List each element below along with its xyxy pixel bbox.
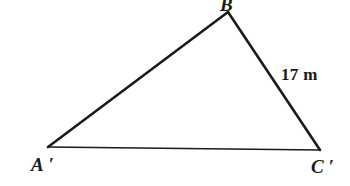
triangle-figure: A ′ B C ′ 17 m [0,0,350,186]
triangle-side-ab [48,12,228,147]
vertex-label-b: B [220,0,233,14]
vertex-label-c-prime: C ′ [311,157,334,176]
vertex-label-a-prime: A ′ [31,155,54,174]
side-length-label-bc: 17 m [281,66,318,83]
triangle-side-ac [48,147,320,150]
